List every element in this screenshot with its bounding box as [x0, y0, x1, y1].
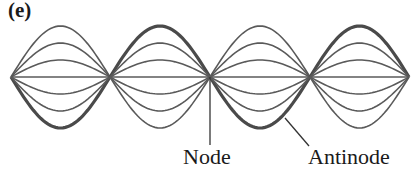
- node-label: Node: [183, 144, 231, 170]
- antinode-label: Antinode: [308, 144, 390, 170]
- antinode-pointer-line: [285, 118, 309, 146]
